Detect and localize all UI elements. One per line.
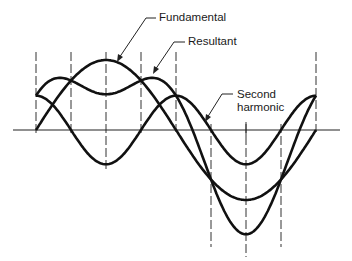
second-harmonic-leader [207,94,233,118]
second-harmonic-label-line2: harmonic [237,101,284,114]
resultant-label: Resultant [188,35,237,48]
waveform-plot [0,0,352,261]
resultant-leader [155,42,185,70]
fundamental-label: Fundamental [159,11,226,24]
resultant-arrowhead [153,66,159,74]
fundamental-leader [119,18,156,58]
waveform-diagram: Fundamental Resultant Second harmonic [0,0,352,261]
waveform-curves [36,60,316,234]
leader-lines [117,18,233,122]
second-harmonic-label-line1: Second [237,88,276,101]
second-harmonic-arrowhead [205,114,211,122]
fundamental-arrowhead [117,54,123,62]
